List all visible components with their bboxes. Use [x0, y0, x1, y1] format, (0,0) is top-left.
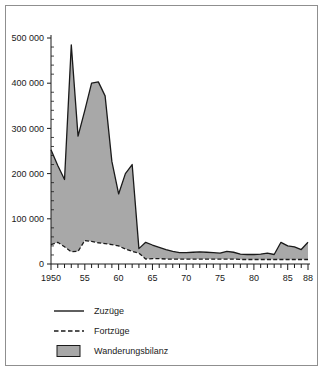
- legend-item: Fortzüge: [54, 326, 130, 336]
- x-axis-tick-label: 65: [147, 273, 157, 283]
- legend-label: Wanderungsbilanz: [94, 346, 169, 356]
- x-axis-tick-label: 80: [249, 273, 259, 283]
- chart-legend: ZuzügeFortzügeWanderungsbilanz: [54, 306, 169, 356]
- legend-label: Zuzüge: [94, 306, 124, 316]
- wanderungsbilanz-band: [51, 45, 308, 260]
- y-axis-tick-label: 300 000: [11, 124, 44, 134]
- y-axis-tick-label: 500 000: [11, 33, 44, 43]
- legend-item: Wanderungsbilanz: [57, 346, 169, 357]
- y-axis-tick-label: 0: [39, 259, 44, 269]
- x-axis-tick-label: 85: [283, 273, 293, 283]
- legend-swatch-icon: [57, 346, 80, 357]
- figure-root: 0100 000200 000300 000400 000500 0001950…: [0, 0, 325, 372]
- x-axis-tick-label: 70: [181, 273, 191, 283]
- y-axis-tick-label: 200 000: [11, 169, 44, 179]
- x-axis-tick-label: 60: [114, 273, 124, 283]
- legend-label: Fortzüge: [94, 326, 130, 336]
- migration-area-chart: 0100 000200 000300 000400 000500 0001950…: [0, 0, 325, 372]
- x-axis-tick-label: 75: [215, 273, 225, 283]
- axes: 0100 000200 000300 000400 000500 0001950…: [11, 33, 313, 283]
- y-axis-tick-label: 400 000: [11, 78, 44, 88]
- x-axis-tick-label: 1950: [41, 273, 61, 283]
- x-axis-tick-label: 88: [303, 273, 313, 283]
- legend-item: Zuzüge: [54, 306, 124, 316]
- y-axis-tick-label: 100 000: [11, 214, 44, 224]
- x-axis-tick-label: 55: [80, 273, 90, 283]
